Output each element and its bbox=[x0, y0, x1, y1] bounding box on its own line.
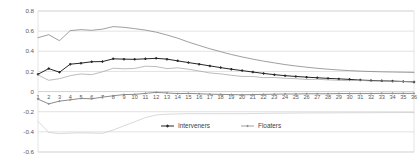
y-tick-label: -0.4 bbox=[23, 128, 34, 135]
x-tick-label: 15 bbox=[185, 94, 191, 100]
x-tick-label: 35 bbox=[400, 94, 406, 100]
x-tick-label: 12 bbox=[153, 94, 159, 100]
x-tick-label: 31 bbox=[357, 94, 363, 100]
y-tick-label: 0.8 bbox=[25, 7, 34, 14]
y-tick-label: 0.4 bbox=[25, 47, 34, 54]
x-tick-label: 2 bbox=[47, 94, 50, 100]
gridlines bbox=[38, 11, 414, 152]
x-tick-label: 11 bbox=[143, 94, 149, 100]
x-tick-label: 33 bbox=[379, 94, 385, 100]
x-tick-label: 3 bbox=[58, 94, 61, 100]
data-series-group bbox=[37, 27, 416, 134]
line-chart: 0.80.60.40.20-0.2-0.4-0.6 12345678910111… bbox=[0, 0, 420, 164]
x-tick-label: 32 bbox=[368, 94, 374, 100]
series-line bbox=[38, 113, 414, 134]
x-tick-label: 30 bbox=[346, 94, 352, 100]
y-tick-label: -0.6 bbox=[23, 148, 34, 155]
y-tick-label: 0.6 bbox=[25, 27, 34, 34]
y-axis-tick-labels: 0.80.60.40.20-0.2-0.4-0.6 bbox=[23, 7, 34, 155]
x-tick-label: 34 bbox=[389, 94, 395, 100]
y-tick-label: 0 bbox=[31, 88, 35, 95]
y-tick-label: -0.2 bbox=[23, 108, 34, 115]
x-tick-label: 29 bbox=[336, 94, 342, 100]
plot-area-border bbox=[38, 11, 414, 152]
legend-label: Interveners bbox=[178, 122, 210, 129]
series-line bbox=[38, 27, 414, 73]
chart-canvas: 0.80.60.40.20-0.2-0.4-0.6 12345678910111… bbox=[0, 0, 420, 164]
x-tick-label: 36 bbox=[411, 94, 417, 100]
legend-label: Floaters bbox=[258, 122, 281, 129]
series-markers bbox=[37, 57, 416, 83]
x-tick-label: 13 bbox=[164, 94, 170, 100]
series-line bbox=[38, 58, 414, 82]
chart-legend: IntervenersFloaters bbox=[161, 122, 281, 129]
x-tick-label: 14 bbox=[175, 94, 181, 100]
y-tick-label: 0.2 bbox=[25, 68, 34, 75]
